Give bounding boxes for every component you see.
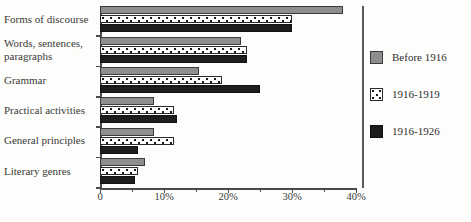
x-axis-label: 10% bbox=[154, 191, 173, 202]
legend-divider bbox=[362, 6, 364, 188]
legend-swatch-icon bbox=[370, 88, 383, 101]
legend-swatch-icon bbox=[370, 125, 383, 138]
legend-label: Before 1916 bbox=[392, 51, 447, 63]
bar-0 bbox=[100, 6, 343, 14]
x-tick-minor bbox=[324, 188, 325, 192]
category-label: Literary genres bbox=[4, 165, 100, 178]
x-axis-label: 20% bbox=[218, 191, 237, 202]
x-axis-label: 30% bbox=[282, 191, 301, 202]
legend-label: 1916-1919 bbox=[392, 88, 440, 100]
category-label: General principles bbox=[4, 134, 100, 147]
bar-1 bbox=[100, 106, 174, 114]
bar-0 bbox=[100, 158, 145, 166]
bar-1 bbox=[100, 167, 138, 175]
bar-2 bbox=[100, 146, 138, 154]
bar-2 bbox=[100, 176, 135, 184]
legend-item[interactable]: 1916-1926 bbox=[370, 122, 468, 140]
bar-1 bbox=[100, 137, 174, 145]
bar-0 bbox=[100, 97, 154, 105]
chart-legend: Before 19161916-19191916-1926 bbox=[370, 48, 468, 159]
bar-chart: Forms of discourseWords, sentences, para… bbox=[0, 0, 471, 222]
bar-0 bbox=[100, 128, 154, 136]
x-axis-label: 0 bbox=[97, 191, 102, 202]
x-tick-minor bbox=[132, 188, 133, 192]
bar-2 bbox=[100, 85, 260, 93]
bar-2 bbox=[100, 55, 247, 63]
bar-1 bbox=[100, 15, 292, 23]
bar-0 bbox=[100, 67, 199, 75]
legend-swatch-icon bbox=[370, 51, 383, 64]
category-label: Forms of discourse bbox=[4, 13, 100, 26]
bar-0 bbox=[100, 37, 241, 45]
bar-2 bbox=[100, 24, 292, 32]
category-label: Words, sentences, paragraphs bbox=[4, 37, 100, 62]
x-tick-minor bbox=[196, 188, 197, 192]
category-tick bbox=[96, 187, 101, 189]
bar-2 bbox=[100, 115, 177, 123]
legend-label: 1916-1926 bbox=[392, 125, 440, 137]
x-tick-minor bbox=[260, 188, 261, 192]
bar-1 bbox=[100, 76, 222, 84]
category-label: Practical activities bbox=[4, 104, 100, 117]
category-label: Grammar bbox=[4, 74, 100, 87]
bar-1 bbox=[100, 46, 247, 54]
x-axis-label: 40% bbox=[346, 191, 365, 202]
legend-item[interactable]: 1916-1919 bbox=[370, 85, 468, 103]
plot-area bbox=[100, 6, 356, 188]
category-axis-labels: Forms of discourseWords, sentences, para… bbox=[4, 0, 100, 222]
legend-item[interactable]: Before 1916 bbox=[370, 48, 468, 66]
